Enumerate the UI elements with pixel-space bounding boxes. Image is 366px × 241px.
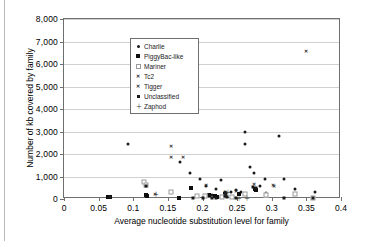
data-point: [144, 184, 147, 187]
data-point: [263, 177, 266, 180]
data-point: ＋: [225, 190, 230, 195]
data-point: [244, 130, 247, 133]
chart-legend: CharliePiggyBac-likeMariner✕Tc2✕TiggerUn…: [130, 38, 199, 114]
data-point: [219, 179, 222, 182]
x-tick-label: 0.3: [266, 203, 278, 213]
x-tick-label: 0.4: [335, 203, 347, 213]
legend-label: Tigger: [144, 83, 162, 90]
legend-marker-icon: [135, 63, 141, 69]
data-point: [263, 193, 268, 198]
y-tick-label: 5,000: [36, 82, 58, 92]
data-point: ✕: [181, 154, 186, 159]
x-tick-label: 0: [62, 203, 67, 213]
data-point: ＋: [236, 195, 241, 200]
y-tick-label: 6,000: [36, 59, 58, 69]
data-point: [191, 196, 194, 199]
data-point: [198, 177, 201, 180]
legend-label: Unclassified: [144, 93, 179, 100]
data-point: [108, 196, 111, 199]
x-tick: [168, 197, 169, 201]
y-tick: [60, 42, 64, 43]
legend-label: Zaphod: [144, 103, 166, 110]
legend-item[interactable]: Mariner: [133, 61, 196, 71]
data-point: [145, 194, 149, 198]
y-tick: [60, 154, 64, 155]
x-tick: [341, 197, 342, 201]
legend-item[interactable]: ✕Tigger: [133, 81, 196, 91]
y-tick-label: 8,000: [36, 14, 58, 24]
x-tick: [99, 197, 100, 201]
legend-marker-icon: [135, 53, 141, 59]
legend-label: Charlie: [144, 43, 165, 50]
x-tick-label: 0.35: [298, 203, 315, 213]
data-point: [214, 196, 217, 199]
x-tick: [306, 197, 307, 201]
y-tick: [60, 177, 64, 178]
y-tick-label: 4,000: [36, 104, 58, 114]
y-tick: [60, 87, 64, 88]
y-tick: [60, 132, 64, 133]
data-point: [293, 187, 296, 190]
data-point: [277, 135, 280, 138]
y-tick-label: 7,000: [36, 37, 58, 47]
x-tick-label: 0.1: [127, 203, 139, 213]
gridline-y: [64, 42, 339, 43]
x-tick: [133, 197, 134, 201]
data-point: ✕: [304, 48, 309, 53]
y-tick-label: 1,000: [36, 172, 58, 182]
data-point: [194, 193, 199, 198]
gridline-y: [64, 132, 339, 133]
y-axis-title-text: Number of kb covered by family: [25, 48, 35, 168]
y-tick-label: 3,000: [36, 127, 58, 137]
data-point: ✕: [169, 144, 174, 149]
legend-label: Mariner: [144, 63, 166, 70]
legend-item[interactable]: ✕Tc2: [133, 71, 196, 81]
data-point: ＋: [153, 191, 158, 196]
legend-item[interactable]: Unclassified: [133, 91, 196, 101]
x-tick-label: 0.15: [160, 203, 177, 213]
data-point: [179, 160, 182, 163]
data-point: [283, 177, 286, 180]
data-point: [253, 172, 256, 175]
data-point: [189, 172, 192, 175]
data-point: [313, 191, 316, 194]
data-point: [258, 185, 261, 188]
gridline-y: [64, 64, 339, 65]
data-point: [283, 196, 286, 199]
data-point: [244, 142, 247, 145]
x-tick-label: 0.2: [197, 203, 209, 213]
legend-item[interactable]: ＋Zaphod: [133, 101, 196, 111]
data-point: [169, 189, 174, 194]
data-point: [214, 188, 217, 191]
gridline-y: [64, 87, 339, 88]
data-point: ✕: [234, 189, 239, 194]
plot-area: 01,0002,0003,0004,0005,0006,0007,0008,00…: [63, 18, 340, 198]
legend-marker-icon: ✕: [135, 73, 141, 79]
data-point: [254, 186, 257, 189]
legend-marker-icon: ✕: [135, 83, 141, 89]
page-edge-rule: [4, 0, 5, 241]
data-point: [248, 165, 251, 168]
data-point: [189, 186, 193, 190]
gridline-y: [64, 154, 339, 155]
legend-item[interactable]: PiggyBac-like: [133, 51, 196, 61]
legend-label: PiggyBac-like: [144, 53, 183, 60]
x-axis-title: Average nucleotide substitution level fo…: [63, 216, 340, 226]
data-point: ＋: [244, 195, 249, 200]
y-tick: [60, 19, 64, 20]
data-point: ✕: [169, 154, 174, 159]
legend-label: Tc2: [144, 73, 154, 80]
y-tick-label: 0: [53, 194, 58, 204]
data-point: [177, 196, 181, 200]
gridline-y: [64, 177, 339, 178]
legend-marker-icon: [135, 43, 141, 49]
x-tick-label: 0.05: [90, 203, 107, 213]
figure-canvas: Number of kb covered by family 01,0002,0…: [0, 0, 366, 241]
y-tick: [60, 109, 64, 110]
x-tick: [64, 197, 65, 201]
data-point: [127, 142, 130, 145]
legend-marker-icon: ＋: [135, 103, 141, 109]
gridline-y: [64, 19, 339, 20]
legend-item[interactable]: Charlie: [133, 41, 196, 51]
data-point: [293, 192, 298, 197]
